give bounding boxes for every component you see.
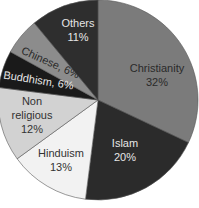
pie-chart-svg: Christianity32%Islam20%Hinduism13%Nonrel… <box>0 0 199 208</box>
pie-chart: Christianity32%Islam20%Hinduism13%Nonrel… <box>0 0 199 208</box>
